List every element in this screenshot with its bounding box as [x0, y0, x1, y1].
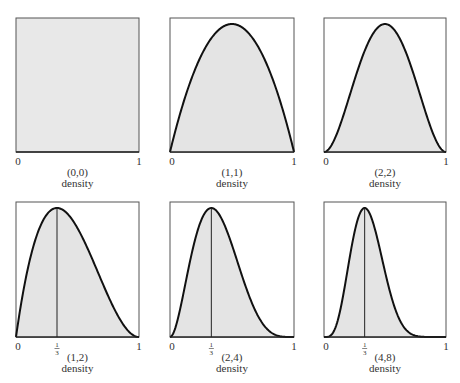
density-figure: 01(0,0)density01(1,1)density01(2,2)densi… — [0, 0, 460, 383]
panel-density-label: density — [369, 362, 401, 374]
density-panel-11: 01(1,1)density — [169, 18, 297, 189]
mode-tick-denominator: 3 — [363, 349, 367, 357]
x-tick-0: 0 — [169, 340, 175, 352]
mode-tick-denominator: 3 — [210, 349, 214, 357]
panel-density-label: density — [369, 177, 401, 189]
x-tick-1: 1 — [443, 155, 449, 167]
x-tick-1: 1 — [291, 340, 297, 352]
x-tick-1: 1 — [443, 340, 449, 352]
density-panel-12: 1301(1,2)density — [15, 202, 142, 374]
density-panel-24: 1301(2,4)density — [169, 202, 297, 374]
panel-density-label: density — [62, 362, 94, 374]
x-tick-0: 0 — [169, 155, 175, 167]
x-tick-1: 1 — [136, 155, 142, 167]
density-panel-48: 1301(4,8)density — [323, 202, 449, 374]
mode-tick-numerator: 1 — [210, 341, 214, 349]
x-tick-0: 0 — [323, 340, 329, 352]
mode-tick-numerator: 1 — [363, 341, 367, 349]
plot-frame — [16, 18, 139, 152]
mode-tick-denominator: 3 — [55, 349, 59, 357]
panel-density-label: density — [216, 362, 248, 374]
panel-density-label: density — [216, 177, 248, 189]
x-tick-0: 0 — [323, 155, 329, 167]
x-tick-1: 1 — [136, 340, 142, 352]
x-tick-1: 1 — [291, 155, 297, 167]
density-panel-22: 01(2,2)density — [323, 18, 449, 189]
x-tick-0: 0 — [15, 340, 21, 352]
mode-tick-numerator: 1 — [55, 341, 59, 349]
density-panel-00: 01(0,0)density — [15, 18, 142, 189]
x-tick-0: 0 — [15, 155, 21, 167]
panel-density-label: density — [62, 177, 94, 189]
